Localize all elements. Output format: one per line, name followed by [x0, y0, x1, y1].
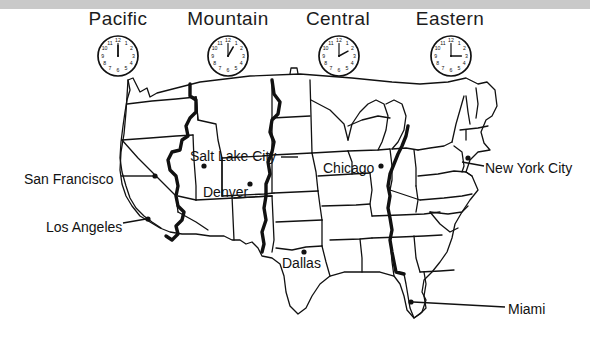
tn-ms-al-ga-line — [372, 235, 442, 238]
sd-ne-line — [272, 153, 312, 155]
tx-la-line — [322, 246, 330, 276]
wi-il-line — [348, 149, 390, 151]
nv-az-line — [178, 196, 196, 200]
northern-border-jog — [290, 68, 298, 74]
nj-line — [454, 146, 464, 172]
city-dot-miami — [408, 299, 413, 304]
ar-la-line — [330, 238, 372, 240]
mo-il-ky-line — [370, 173, 372, 216]
wa-or-line — [127, 97, 196, 104]
il-ky-south — [390, 190, 420, 200]
pa-md-line — [418, 171, 466, 176]
az-nm-line — [232, 196, 234, 240]
nm-tx-line — [272, 196, 274, 252]
mn-wi-line — [311, 100, 348, 140]
city-dot-group — [145, 155, 470, 304]
city-label-new-york-city: New York City — [485, 160, 572, 176]
city-label-chicago: Chicago — [323, 160, 374, 176]
city-label-denver: Denver — [203, 184, 248, 200]
city-label-salt-lake-city: Salt Lake City — [190, 148, 276, 164]
vt-nh-line — [466, 96, 470, 124]
ma-ct-ri-line — [460, 126, 488, 130]
zone-boundary-mountain-central — [262, 80, 280, 252]
city-dot-san-francisco — [152, 173, 157, 178]
city-label-miami: Miami — [508, 301, 545, 317]
city-dot-denver — [247, 181, 252, 186]
leader-line-los-angeles — [123, 219, 146, 223]
ny-pa-line — [418, 142, 452, 150]
ok-tx-line — [276, 246, 322, 250]
va-nc-line — [420, 194, 472, 200]
time-zone-map-page: Pacific Mountain Central Eastern 12 1 2 … — [0, 0, 590, 343]
ks-ok-line — [276, 220, 322, 222]
mn-ia-line — [312, 151, 348, 153]
de-md-line — [466, 172, 472, 176]
city-dot-dallas — [301, 249, 306, 254]
ny-vt-nh-me-lines — [452, 96, 464, 142]
nh-me-line — [476, 88, 478, 118]
ne-ks-line — [274, 191, 318, 193]
city-dot-chicago — [378, 163, 383, 168]
nv-ut-line — [193, 135, 196, 200]
ne-ia-line — [312, 153, 318, 191]
city-label-los-angeles: Los Angeles — [46, 219, 122, 235]
ga-fl-line — [420, 270, 454, 272]
city-dot-salt-lake-city — [201, 163, 206, 168]
la-ms-line — [360, 239, 362, 272]
city-label-dallas: Dallas — [282, 255, 321, 271]
city-label-san-francisco: San Francisco — [24, 171, 113, 187]
great-lakes-michigan — [348, 100, 388, 150]
al-ga-line — [414, 236, 420, 272]
nc-sc-line — [430, 206, 468, 214]
mo-ar-line — [322, 204, 370, 206]
leader-line-miami — [413, 302, 505, 307]
city-dot-new-york-city — [465, 155, 470, 160]
city-dot-los-angeles — [145, 216, 150, 221]
in-oh-line — [414, 150, 416, 186]
leader-line-new-york-city — [462, 162, 484, 166]
ks-mo-line — [318, 191, 322, 220]
